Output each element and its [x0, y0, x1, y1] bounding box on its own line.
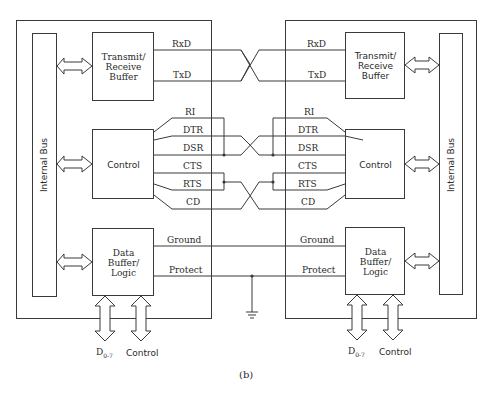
left-dsr-label: DSR: [183, 143, 203, 153]
figure-label: (b): [239, 370, 253, 380]
text-line: Receive: [106, 62, 142, 72]
right-bus-arrow-3: [405, 253, 439, 269]
left-rts-label: RTS: [183, 179, 202, 189]
right-bus-arrow-1: [405, 57, 439, 73]
right-tr-buffer-label: Transmit/ Receive Buffer: [346, 33, 405, 99]
left-rxd-label: RxD: [172, 39, 191, 49]
text-line: Transmit/: [355, 51, 397, 61]
left-rts-cross: [224, 182, 280, 209]
right-bus-arrow-2: [405, 156, 439, 172]
text-line: Buffer/: [360, 257, 391, 267]
text-line: Data: [113, 248, 135, 258]
earth-symbol: [246, 312, 258, 318]
txd-left-line: [154, 64, 250, 81]
right-txd-label: TxD: [308, 70, 326, 80]
right-rts-cross: [250, 182, 273, 196]
right-d-arrow: [347, 295, 367, 340]
text-line: Logic: [363, 267, 388, 277]
right-data-buffer-label: Data Buffer/ Logic: [346, 228, 405, 295]
left-txd-label: TxD: [173, 70, 191, 80]
left-control-label: Control: [93, 130, 154, 199]
null-modem-diagram: [0, 0, 493, 398]
d-sub: 0-7: [355, 351, 365, 358]
left-dtr-label: DTR: [183, 125, 203, 135]
right-internal-bus-label: Internal Bus: [446, 135, 456, 195]
right-dtr-label: DTR: [298, 125, 318, 135]
left-ground-label: Ground: [167, 235, 201, 245]
text-line: Receive: [358, 61, 393, 71]
right-ctrl-arrow: [383, 295, 403, 340]
right-ground-label: Ground: [300, 235, 334, 245]
text-line: Buffer: [109, 72, 137, 82]
right-d-port-label: D0-7: [348, 346, 365, 360]
text-line: Transmit/: [101, 52, 145, 62]
left-ri-label: RI: [185, 107, 195, 117]
left-bus-arrow-3: [57, 254, 92, 270]
left-data-buffer-label: Data Buffer/ Logic: [93, 229, 154, 296]
right-rxd-label: RxD: [307, 39, 326, 49]
right-ri-label: RI: [304, 107, 314, 117]
left-tr-buffer-label: Transmit/ Receive Buffer: [93, 33, 154, 101]
left-cts-label: CTS: [183, 161, 202, 171]
text-line: Buffer/: [108, 258, 139, 268]
left-protect-label: Protect: [169, 265, 202, 275]
text-line: Logic: [111, 268, 136, 278]
left-d-port-label: D0-7: [96, 347, 113, 361]
text-line: Data: [365, 247, 387, 257]
left-cd-label: CD: [186, 197, 200, 207]
left-cd: [154, 195, 250, 209]
left-internal-bus-label: Internal Bus: [39, 135, 49, 195]
left-bus-arrow-1: [57, 58, 92, 74]
right-control-port-label: Control: [379, 347, 412, 357]
right-cts-label: CTS: [298, 161, 317, 171]
d-sub: 0-7: [103, 352, 113, 359]
right-protect-label: Protect: [302, 265, 335, 275]
left-control-port-label: Control: [126, 348, 159, 358]
right-cd-label: CD: [301, 197, 315, 207]
right-rts-label: RTS: [298, 179, 317, 189]
right-dsr-label: DSR: [298, 143, 318, 153]
rxd-left-line: [154, 50, 250, 64]
left-bus-arrow-2: [57, 156, 92, 172]
text-line: Buffer: [362, 71, 389, 81]
right-control-label: Control: [346, 130, 405, 199]
